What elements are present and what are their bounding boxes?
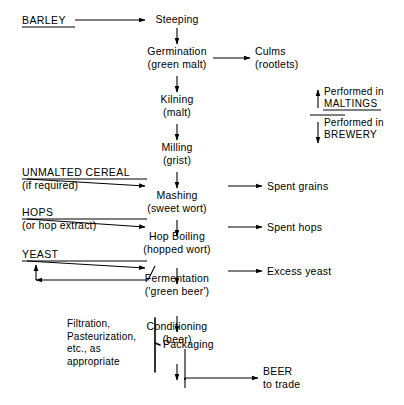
output-label-spent-hops: Spent hops <box>267 221 322 234</box>
process-node-fermentation: Fermentation ('green beer') <box>145 272 210 297</box>
elbow-packaging-to-beer <box>185 349 258 378</box>
legend-brewery-performed: Performed in <box>324 117 384 129</box>
packaging-note-line4: appropriate <box>67 356 136 369</box>
packaging-to-beer-path <box>185 349 258 388</box>
recycle-line-horizontal <box>36 266 155 280</box>
output-main-spent-hops: Spent hops <box>267 221 322 233</box>
packaging-note-line2: Pasteurization, <box>67 331 136 344</box>
output-sub-culms: (rootlets) <box>255 58 298 71</box>
process-node-milling: Milling (grist) <box>161 141 192 166</box>
output-sub-beer: to trade <box>263 378 300 391</box>
node-sublabel-kilning: (malt) <box>161 106 194 119</box>
node-sublabel-mashing: (sweet wort) <box>147 202 207 215</box>
node-label-steeping: Steeping <box>155 13 198 25</box>
packaging-note-line3: etc., as <box>67 343 136 356</box>
input-label-barley: BARLEY <box>22 14 66 27</box>
node-label-hop-boiling: Hop Boiling <box>149 230 205 242</box>
input-label-yeast: YEAST <box>22 248 58 261</box>
output-main-spent-grains: Spent grains <box>267 180 328 192</box>
process-node-mashing: Mashing (sweet wort) <box>147 189 207 214</box>
output-label-excess-yeast: Excess yeast <box>267 265 331 278</box>
node-label-fermentation: Fermentation <box>145 272 209 284</box>
packaging-note: Filtration, Pasteurization, etc., as app… <box>67 318 136 368</box>
node-label-conditioning: Conditioning <box>147 320 208 332</box>
input-main-yeast: YEAST <box>22 248 58 261</box>
input-label-hops: HOPS (or hop extract) <box>22 206 96 231</box>
node-sublabel-germination: (green malt) <box>147 58 206 71</box>
node-label-milling: Milling <box>161 141 192 153</box>
process-node-hop-boiling: Hop Boiling (hopped wort) <box>143 230 210 255</box>
input-main-unmalted-cereal: UNMALTED CEREAL <box>22 166 130 179</box>
process-node-packaging: Packaging <box>163 338 214 351</box>
node-label-kilning: Kilning <box>161 93 194 105</box>
node-sublabel-hop-boiling: (hopped wort) <box>143 243 210 256</box>
output-arrows <box>213 58 262 271</box>
node-label-germination: Germination <box>147 45 206 57</box>
legend-maltings-place: MALTINGS <box>324 98 384 110</box>
legend-brewery-place: BREWERY <box>324 129 384 141</box>
node-label-packaging: Packaging <box>163 338 214 350</box>
packaging-note-line1: Filtration, <box>67 318 136 331</box>
output-main-excess-yeast: Excess yeast <box>267 265 331 277</box>
input-main-barley: BARLEY <box>22 14 66 27</box>
process-node-steeping: Steeping <box>155 13 198 26</box>
input-main-hops: HOPS <box>22 206 96 219</box>
legend-maltings: Performed in MALTINGS <box>324 86 384 110</box>
legend-maltings-performed: Performed in <box>324 86 384 98</box>
node-sublabel-fermentation: ('green beer') <box>145 285 210 298</box>
output-label-culms: Culms (rootlets) <box>255 45 298 70</box>
process-node-germination: Germination (green malt) <box>147 45 206 70</box>
process-node-kilning: Kilning (malt) <box>161 93 194 118</box>
node-sublabel-milling: (grist) <box>161 154 192 167</box>
input-sub-unmalted-cereal: (if required) <box>22 179 130 192</box>
input-sub-hops: (or hop extract) <box>22 219 96 232</box>
node-label-mashing: Mashing <box>156 189 197 201</box>
output-main-culms: Culms <box>255 45 286 57</box>
output-label-beer: BEER to trade <box>263 365 300 390</box>
input-label-unmalted-cereal: UNMALTED CEREAL (if required) <box>22 166 130 191</box>
legend-brewery: Performed in BREWERY <box>324 117 384 141</box>
output-main-beer: BEER <box>263 365 292 377</box>
arrow-yeast-to-fermentation <box>27 261 145 268</box>
output-label-spent-grains: Spent grains <box>267 180 328 193</box>
brewing-flow-diagram: Steeping Germination (green malt) Kilnin… <box>0 0 404 405</box>
